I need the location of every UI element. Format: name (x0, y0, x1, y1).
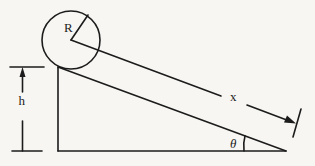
distance-label: x (230, 89, 237, 104)
distance-arrow-shaft (247, 105, 292, 122)
height-label: h (19, 93, 26, 108)
incline-ball-diagram: R x h θ (0, 0, 315, 166)
distance-arrowhead (284, 116, 296, 124)
angle-label: θ (230, 136, 237, 151)
radius-line (71, 15, 88, 40)
height-arrowhead (20, 67, 26, 77)
angle-arc (244, 136, 245, 151)
radius-label: R (64, 20, 73, 35)
center-path-line (71, 40, 221, 96)
incline (58, 67, 286, 151)
